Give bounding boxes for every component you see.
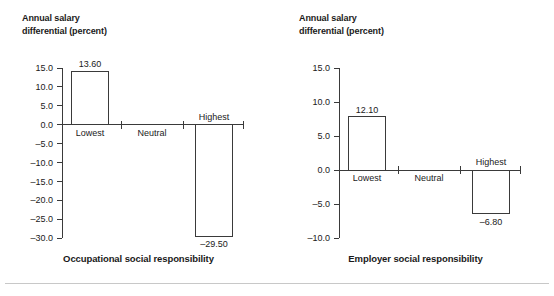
y-tick-label: –30.0 xyxy=(30,233,53,243)
y-tick-label: –10.0 xyxy=(307,233,330,243)
plot-area-employer: 15.010.05.00.0–5.0–10.012.10LowestNeutra… xyxy=(277,0,554,296)
y-tick-label: 5.0 xyxy=(317,131,330,141)
y-tick-label: 10.0 xyxy=(312,97,330,107)
panel-caption: Employer social responsibility xyxy=(277,253,554,264)
category-label: Highest xyxy=(199,112,230,122)
y-tick-label: –10.0 xyxy=(30,158,53,168)
y-tick-label: 15.0 xyxy=(35,63,53,73)
category-label: Highest xyxy=(476,157,507,167)
category-label: Lowest xyxy=(76,128,105,138)
y-tick-label: 15.0 xyxy=(312,63,330,73)
footer-rule xyxy=(5,283,549,284)
y-tick-label: –25.0 xyxy=(30,214,53,224)
y-tick-label: 0.0 xyxy=(317,165,330,175)
category-label: Lowest xyxy=(353,173,382,183)
y-tick-label: –20.0 xyxy=(30,195,53,205)
bar-value-label: 12.10 xyxy=(356,105,379,115)
y-tick-label: –5.0 xyxy=(312,199,330,209)
y-tick-label: 5.0 xyxy=(40,101,53,111)
panel-caption: Occupational social responsibility xyxy=(0,253,277,264)
plot-svg: 15.010.05.00.0–5.0–10.0–15.0–20.0–25.0–3… xyxy=(0,0,277,296)
chart-panel-occupational: Annual salary differential (percent) 15.… xyxy=(0,0,277,296)
bar-value-label: –29.50 xyxy=(200,239,228,249)
bar-value-label: –6.80 xyxy=(480,217,503,227)
figure: Annual salary differential (percent) 15.… xyxy=(0,0,554,296)
y-tick-label: 0.0 xyxy=(40,120,53,130)
y-tick-label: –5.0 xyxy=(35,139,53,149)
bar xyxy=(349,117,386,170)
y-tick-label: –15.0 xyxy=(30,177,53,187)
bar xyxy=(473,170,510,214)
bar xyxy=(196,125,233,236)
category-label: Neutral xyxy=(414,173,443,183)
y-tick-label: 10.0 xyxy=(35,82,53,92)
plot-area-occupational: 15.010.05.00.0–5.0–10.0–15.0–20.0–25.0–3… xyxy=(0,0,277,296)
chart-panel-employer: Annual salary differential (percent) 15.… xyxy=(277,0,554,296)
category-label: Neutral xyxy=(137,128,166,138)
bar xyxy=(72,71,109,124)
bar-value-label: 13.60 xyxy=(79,59,102,69)
plot-svg: 15.010.05.00.0–5.0–10.012.10LowestNeutra… xyxy=(277,0,554,296)
